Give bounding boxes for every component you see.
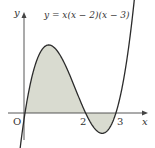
shaded-area [25, 45, 116, 133]
x-tick-label-3: 3 [117, 116, 123, 127]
x-axis-label: x [142, 116, 148, 127]
origin-label: O [13, 116, 21, 127]
equation-label: y = x(x − 2)(x − 3) [43, 10, 130, 20]
x-tick-label-2: 2 [80, 116, 86, 127]
y-axis-label: y [13, 7, 20, 18]
y-axis-arrow-icon [22, 12, 27, 18]
x-axis-arrow-icon [142, 111, 148, 116]
cubic-function-graph: y x O 2 3 y = x(x − 2)(x − 3) [0, 0, 155, 148]
